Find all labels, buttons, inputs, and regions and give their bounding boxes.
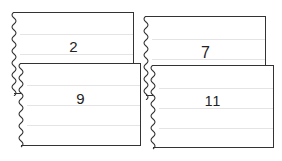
card-value: 11 (153, 93, 273, 109)
card-value: 7 (146, 44, 265, 62)
card-value: 2 (14, 38, 133, 55)
note-card-11: 11 (153, 65, 274, 148)
card-value: 9 (21, 90, 140, 107)
note-card-9: 9 (21, 63, 141, 146)
